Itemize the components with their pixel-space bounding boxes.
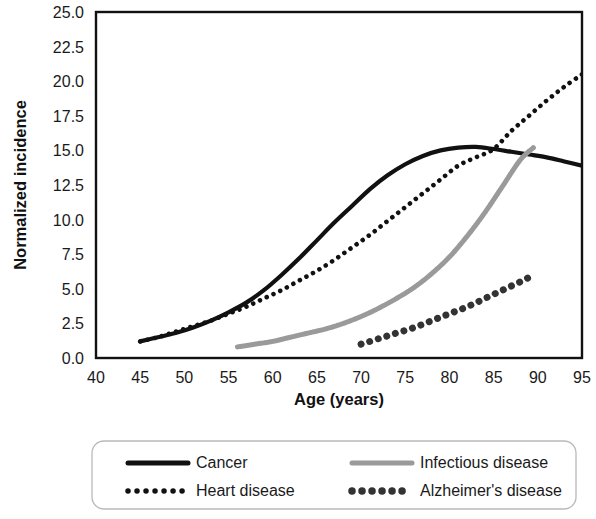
x-tick-label: 90: [529, 369, 547, 386]
y-tick-label: 2.5: [62, 315, 84, 332]
x-axis-tick-labels: 404550556065707580859095: [87, 369, 591, 386]
x-tick-label: 70: [352, 369, 370, 386]
y-tick-label: 25.0: [53, 4, 84, 21]
y-tick-label: 12.5: [53, 177, 84, 194]
y-axis-tick-labels: 0.02.55.07.510.012.515.017.520.022.525.0: [53, 4, 84, 367]
x-tick-label: 60: [264, 369, 282, 386]
y-tick-label: 5.0: [62, 281, 84, 298]
y-tick-label: 17.5: [53, 108, 84, 125]
y-tick-label: 20.0: [53, 73, 84, 90]
legend-item-label: Heart disease: [196, 482, 295, 499]
y-tick-label: 7.5: [62, 246, 84, 263]
x-tick-label: 95: [573, 369, 591, 386]
x-tick-label: 40: [87, 369, 105, 386]
y-tick-label: 10.0: [53, 212, 84, 229]
chart-legend: CancerInfectious diseaseHeart diseaseAlz…: [92, 441, 576, 509]
legend-item-label: Infectious disease: [420, 454, 548, 471]
x-tick-label: 65: [308, 369, 326, 386]
y-tick-label: 15.0: [53, 142, 84, 159]
legend-item-label: Cancer: [196, 454, 248, 471]
x-tick-label: 80: [441, 369, 459, 386]
y-tick-label: 0.0: [62, 350, 84, 367]
x-tick-label: 85: [485, 369, 503, 386]
x-tick-label: 55: [220, 369, 238, 386]
incidence-vs-age-line-chart: 0.02.55.07.510.012.515.017.520.022.525.0…: [0, 0, 596, 519]
x-tick-label: 75: [396, 369, 414, 386]
x-tick-label: 50: [175, 369, 193, 386]
x-tick-label: 45: [131, 369, 149, 386]
y-tick-label: 22.5: [53, 39, 84, 56]
plot-area-frame: [96, 12, 582, 358]
x-axis-title: Age (years): [294, 390, 384, 408]
y-axis-title: Normalized incidence: [11, 100, 29, 270]
chart-figure: 0.02.55.07.510.012.515.017.520.022.525.0…: [0, 0, 596, 519]
legend-item-label: Alzheimer's disease: [420, 482, 562, 499]
